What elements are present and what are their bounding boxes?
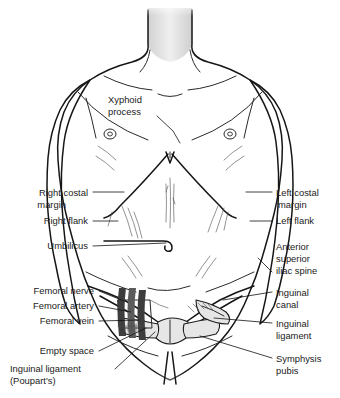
label-line: Femoral artery (33, 300, 94, 311)
label-line: Inguinal (276, 287, 309, 298)
label-line: Empty space (40, 345, 94, 356)
label-line: Right flank (44, 215, 89, 226)
pectoral-fold-left (192, 92, 262, 140)
label-femoral-nerve: Femoral nerve (34, 285, 94, 296)
label-empty-space: Empty space (40, 345, 94, 356)
label-anterior-superior-iliac-spine: Anteriorsuperioriliac spine (276, 241, 317, 276)
leader-line-femoral-artery (99, 306, 131, 312)
groin-crease-right (108, 336, 158, 356)
label-femoral-artery: Femoral artery (33, 300, 94, 311)
leader-line-umbilicus (93, 243, 166, 246)
label-right-flank: Right flank (44, 215, 89, 226)
label-right-costal-margin: Right costalmargin (37, 187, 88, 210)
leader-line-xyphoid-process (157, 116, 180, 143)
label-line: pubis (276, 365, 299, 376)
rib-shading-left (208, 146, 244, 232)
costal-margin-right-curve (104, 154, 168, 218)
scm-left (190, 50, 200, 72)
label-line: Right costal (39, 187, 88, 198)
label-line: Femoral nerve (34, 285, 94, 296)
label-inguinal-ligament: Inguinalligament (276, 318, 312, 341)
surface-detail (78, 50, 262, 308)
suprapubic-crease (148, 286, 190, 291)
label-line: Umbilicus (47, 240, 88, 251)
scm-right (140, 50, 150, 72)
label-line: ligament (276, 330, 312, 341)
axilla-right (86, 98, 96, 138)
top-fade (0, 0, 340, 16)
nipple-right (104, 129, 116, 139)
label-line: Left flank (276, 215, 314, 226)
linea-alba (170, 178, 171, 228)
label-line: Anterior (276, 241, 309, 252)
label-line: Inguinal (276, 318, 309, 329)
pelvic-anatomy (88, 286, 254, 384)
clavicle-left (188, 76, 236, 90)
label-xyphoid-process: Xyphoidprocess (108, 94, 142, 117)
label-left-flank: Left flank (276, 215, 314, 226)
costal-margin-left-curve (172, 154, 236, 218)
label-line: superior (276, 253, 310, 264)
axilla-left (244, 98, 254, 138)
label-line: process (108, 106, 141, 117)
label-line: (Poupart's) (10, 375, 56, 386)
femoral-vein (138, 290, 147, 340)
femoral-nerve (118, 288, 127, 336)
label-left-costal-margin: Left costalmargin (276, 187, 319, 210)
label-line: canal (276, 299, 298, 310)
clavicle-right (104, 76, 152, 90)
label-line: Symphysis (276, 353, 322, 364)
label-line: Inguinal ligament (10, 363, 81, 374)
label-line: iliac spine (276, 265, 317, 276)
nipple-left (224, 129, 236, 139)
label-umbilicus: Umbilicus (47, 240, 88, 251)
suprasternal-notch (158, 94, 182, 97)
label-inguinal-canal: Inguinalcanal (276, 287, 309, 310)
label-femoral-vein: Femoral vein (40, 315, 94, 326)
leader-line-symphysis-pubis (200, 336, 272, 358)
label-line: margin (278, 199, 307, 210)
label-line: Femoral vein (40, 315, 94, 326)
umbilicus (104, 241, 172, 251)
label-line: Xyphoid (108, 94, 142, 105)
neck (148, 8, 192, 62)
label-line: margin (37, 199, 66, 210)
abdominal-anatomy-figure: XyphoidprocessRight costalmarginRight fl… (0, 0, 340, 398)
groin-crease-left (182, 336, 232, 356)
label-line: Left costal (276, 187, 319, 198)
